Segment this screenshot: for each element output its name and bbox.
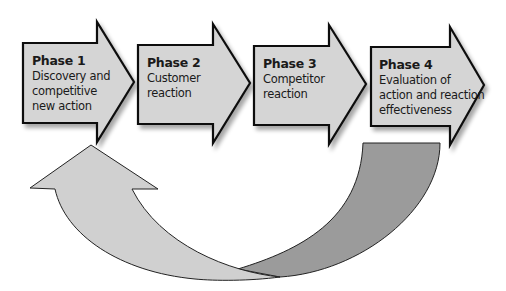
phase-cycle-diagram [0,0,506,291]
phase-1-title: Phase 1 [32,53,110,68]
phase-2-title: Phase 2 [147,55,200,70]
feedback-arrow-light [30,145,280,280]
phase-3-description: Competitor reaction [263,72,325,102]
phase-4-title: Phase 4 [379,57,485,72]
phase-2-description: Customer reaction [147,71,200,101]
phase-1-description: Discovery and competitive new action [32,69,110,114]
phase-4-label: Phase 4 Evaluation of action and reactio… [379,57,485,118]
phase-1-label: Phase 1 Discovery and competitive new ac… [32,53,110,114]
phase-3-title: Phase 3 [263,56,325,71]
feedback-band-dark [238,143,440,277]
phase-3-label: Phase 3 Competitor reaction [263,56,325,102]
phase-2-label: Phase 2 Customer reaction [147,55,200,101]
phase-4-description: Evaluation of action and reaction effect… [379,73,485,118]
